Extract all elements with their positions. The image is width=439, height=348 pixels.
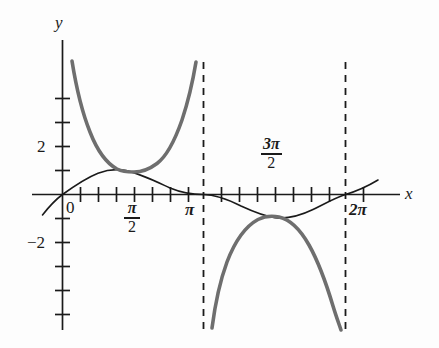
x-tick-label-pi-over-2: π 2 [124, 200, 140, 235]
x-tick-label-pi-over-2-numerator: π [126, 200, 139, 216]
x-tick-label-three-pi-over-2-numerator: 3π [261, 136, 282, 152]
figure-canvas: y x 0 π 2 π 3π 2 2π 2 −2 [0, 0, 439, 348]
plot-svg [0, 0, 439, 348]
cosecant-curve-upper [72, 61, 196, 172]
asymptote-group [204, 62, 346, 330]
x-tick-label-three-pi-over-2: 3π 2 [261, 136, 282, 171]
y-axis-label: y [55, 13, 63, 33]
y-tick-label-2: 2 [37, 137, 46, 157]
y-tick-label-minus-2: −2 [27, 233, 45, 253]
x-tick-label-pi: π [185, 200, 194, 220]
cosecant-curve-lower [212, 216, 341, 330]
x-axis-label: x [405, 184, 413, 204]
x-tick-label-0: 0 [66, 198, 75, 218]
x-tick-label-two-pi: 2π [349, 200, 367, 220]
x-tick-label-three-pi-over-2-denominator: 2 [265, 155, 277, 171]
x-tick-label-pi-over-2-denominator: 2 [126, 219, 138, 235]
